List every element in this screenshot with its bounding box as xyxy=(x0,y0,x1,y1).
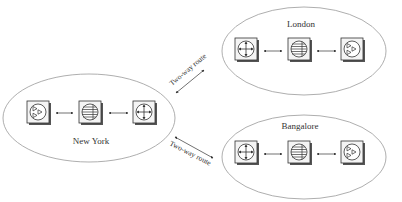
site-bangalore: Bangalore xyxy=(222,115,386,199)
lines-icon xyxy=(288,38,312,62)
network-diagram: New York London Bangalore Two-way route … xyxy=(0,0,402,202)
lines-icon xyxy=(288,141,312,165)
site-new-york: New York xyxy=(3,74,175,162)
site-label: New York xyxy=(73,136,110,146)
crosshair-icon xyxy=(235,141,259,165)
triangles-icon xyxy=(341,141,365,165)
triangles-icon xyxy=(341,38,365,62)
crosshair-icon xyxy=(235,38,259,62)
route-label: Two-way route xyxy=(168,139,213,168)
site-london: London xyxy=(222,7,386,95)
lines-icon xyxy=(79,101,103,125)
site-label: London xyxy=(287,19,315,29)
route-ny-london: Two-way route xyxy=(168,51,209,93)
route-ny-bangalore: Two-way route xyxy=(168,137,213,168)
crosshair-icon xyxy=(133,101,157,125)
route-label: Two-way route xyxy=(168,51,209,88)
site-label: Bangalore xyxy=(282,121,319,131)
triangles-icon xyxy=(27,101,51,125)
